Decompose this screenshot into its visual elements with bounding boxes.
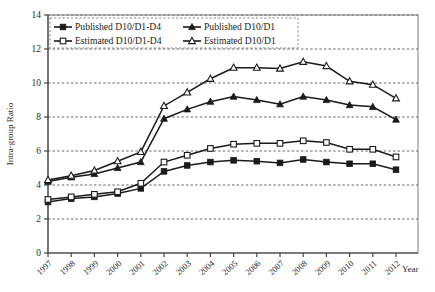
data-point-marker (347, 147, 353, 153)
data-point-marker (370, 161, 376, 167)
y-tick-label-10: 10 (32, 78, 42, 88)
data-point-marker (208, 146, 214, 152)
data-point-marker (277, 141, 283, 147)
chart-page: 02468101214 1997199819992000200120022003… (0, 0, 435, 292)
legend-item-label: Published D10/D1-D4 (75, 21, 161, 32)
data-point-marker (184, 152, 190, 158)
data-point-marker (161, 159, 167, 165)
data-point-marker (184, 163, 190, 169)
data-point-marker (277, 160, 283, 166)
legend-item-label: Estimated D10/D1-D4 (75, 35, 162, 46)
y-tick-label-12: 12 (32, 44, 42, 54)
data-point-marker (231, 158, 237, 164)
data-point-marker (300, 138, 306, 144)
intra-group-ratio-line-chart: 02468101214 1997199819992000200120022003… (0, 0, 435, 292)
data-point-marker (370, 147, 376, 153)
y-tick-label-6: 6 (36, 146, 41, 156)
data-point-marker (393, 167, 399, 173)
y-tick-label-2: 2 (36, 214, 41, 224)
data-point-marker (138, 181, 144, 187)
data-point-marker (347, 161, 353, 167)
y-tick-label-4: 4 (36, 180, 41, 190)
data-point-marker (393, 154, 399, 160)
data-point-marker (60, 24, 66, 30)
data-point-marker (300, 157, 306, 163)
data-point-marker (324, 159, 330, 165)
data-point-marker (254, 158, 260, 164)
data-point-marker (208, 159, 214, 165)
svg-text:Intra-group Ratio: Intra-group Ratio (5, 102, 15, 165)
data-point-marker (45, 197, 51, 203)
legend-item-label: Published D10/D1 (204, 21, 275, 32)
legend-item-label: Estimated D10/D1 (204, 35, 276, 46)
data-point-marker (68, 194, 74, 200)
x-axis-title: Year (402, 264, 419, 274)
data-point-marker (60, 38, 66, 44)
data-point-marker (254, 141, 260, 147)
data-point-marker (115, 189, 121, 195)
y-tick-label-14: 14 (32, 10, 42, 20)
y-tick-label-0: 0 (36, 248, 41, 258)
y-tick-label-8: 8 (36, 112, 41, 122)
data-point-marker (324, 140, 330, 146)
data-point-marker (161, 169, 167, 175)
data-point-marker (231, 141, 237, 147)
data-point-marker (92, 192, 98, 198)
y-axis-title: Intra-group Ratio (5, 102, 15, 165)
